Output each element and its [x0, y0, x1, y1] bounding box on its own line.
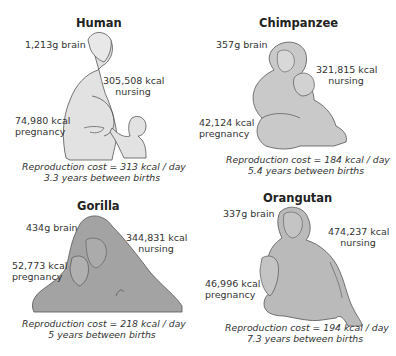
- orangutan-title: Orangutan: [263, 191, 332, 205]
- orangutan-pregnancy-value: 46,996 kcal: [205, 278, 260, 289]
- orangutan-mother-and-infant-illustration: [0, 0, 396, 356]
- orangutan-reproduction-cost: Reproduction cost = 194 kcal / day: [225, 322, 385, 333]
- orangutan-nursing-text: nursing: [328, 237, 388, 248]
- orangutan-brain-label: 337g brain: [223, 208, 275, 219]
- orangutan-cost-caption: Reproduction cost = 194 kcal / day 7.3 y…: [225, 322, 385, 344]
- orangutan-birth-interval: 7.3 years between births: [225, 333, 385, 344]
- orangutan-nursing-value: 474,237 kcal: [328, 226, 388, 237]
- orangutan-nursing-label: 474,237 kcal nursing: [328, 226, 388, 248]
- orangutan-pregnancy-text: pregnancy: [205, 289, 260, 300]
- orangutan-pregnancy-label: 46,996 kcal pregnancy: [205, 278, 260, 300]
